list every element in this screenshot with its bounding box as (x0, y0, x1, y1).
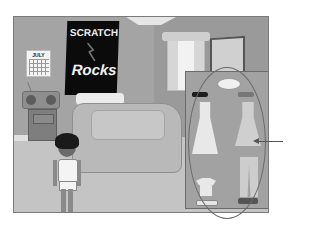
calendar-grid (29, 59, 49, 75)
callout-arrow-line (258, 141, 283, 142)
poster-subtitle: Rocks (71, 61, 117, 78)
bed (72, 103, 182, 173)
lightning-bolt-icon (84, 43, 99, 61)
character-leg-left (61, 189, 66, 213)
character-leg-right (68, 189, 73, 213)
speaker-left (26, 95, 36, 105)
arrow-left-icon (253, 138, 259, 144)
character-hair (55, 133, 79, 149)
calendar-month: JULY (27, 52, 50, 58)
dress-up-character[interactable] (51, 137, 87, 213)
poster-title: SCRATCH (70, 27, 116, 38)
window-valance (162, 32, 210, 41)
speaker-right (46, 95, 56, 105)
character-tank-top (58, 159, 78, 183)
character-arm-left (53, 160, 57, 186)
calendar: JULY (26, 50, 51, 77)
curtain-left (168, 41, 178, 90)
boombox-radio (22, 91, 60, 109)
bed-blanket (91, 110, 165, 140)
nightstand-drawer (33, 114, 54, 124)
scratch-rocks-poster: SCRATCH Rocks (65, 21, 120, 95)
